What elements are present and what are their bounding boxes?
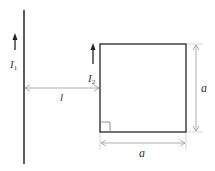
horizontal-side-label: a [139,146,145,160]
distance-label: l [60,91,63,103]
current-label-i1: I1 [9,58,18,72]
diagram-canvas: I1 I2 l a a [0,0,215,171]
vertical-side-label: a [201,81,207,95]
current-label-i2: I2 [87,72,96,86]
right-angle-mark [100,122,110,132]
current-arrow-i2-icon [91,43,96,64]
current-arrow-i1-icon [13,33,18,50]
square-loop [100,44,186,132]
